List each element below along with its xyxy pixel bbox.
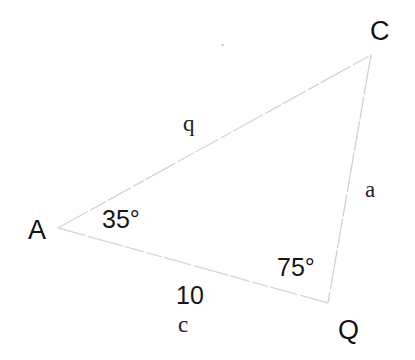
triangle-outline (0, 0, 415, 360)
side-label-c: c (178, 313, 188, 336)
vertex-label-q: Q (338, 317, 359, 344)
side-label-q: q (183, 112, 195, 135)
scan-speck-artifact (221, 44, 224, 46)
side-length-label-c: 10 (176, 283, 204, 308)
diagram-canvas: A C Q 35° 75° q a 10 c (0, 0, 415, 360)
angle-label-at-q: 75° (277, 255, 315, 280)
angle-label-at-a: 35° (102, 207, 140, 232)
vertex-label-a: A (28, 217, 46, 244)
side-label-a: a (365, 178, 375, 201)
vertex-label-c: C (370, 18, 390, 45)
side-q-line (58, 55, 371, 228)
